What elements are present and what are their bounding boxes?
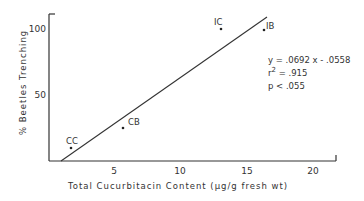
data-points: [70, 28, 266, 150]
r-squared: r2 = .915: [268, 66, 307, 78]
data-point-cb: [122, 127, 125, 130]
point-label-cb: CB: [128, 117, 140, 127]
x-tick-label-15: 15: [241, 166, 252, 176]
x-axis-title: Total Cucurbitacin Content (µg/g fresh w…: [67, 181, 288, 191]
data-point-ic: [220, 28, 223, 31]
regression-line: [61, 17, 267, 161]
point-label-ib: IB: [266, 21, 275, 31]
data-point-cc: [70, 147, 73, 150]
x-tick-label-10: 10: [174, 166, 186, 176]
r-squared-value: = .915: [276, 68, 307, 78]
y-tick-label-50: 50: [35, 90, 47, 100]
point-label-ic: IC: [214, 17, 223, 27]
x-tick-label-20: 20: [307, 166, 319, 176]
data-point-ib: [263, 29, 266, 32]
y-axis-title: % Beetles Trenching: [18, 30, 28, 135]
scatter-chart: 100 50 5 10 15 20 Total Cucurbitacin Con…: [0, 0, 364, 201]
p-value: p < .055: [268, 81, 305, 91]
y-tick-label-100: 100: [29, 24, 46, 34]
regression-equation: y = .0692 x - .0558: [268, 55, 350, 65]
x-tick-label-5: 5: [111, 166, 117, 176]
point-label-cc: CC: [66, 136, 78, 146]
